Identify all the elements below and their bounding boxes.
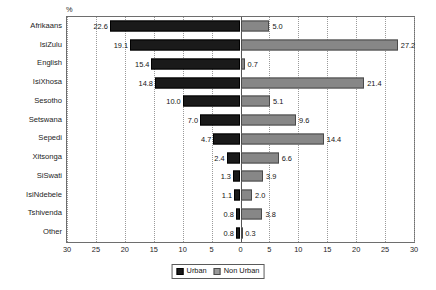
value-label-non-urban: 0.3 (245, 228, 255, 237)
legend-item[interactable]: Urban (177, 266, 207, 276)
category-label: Tshivenda (0, 208, 62, 217)
category-label: IsiXhosa (0, 77, 62, 86)
bar-non-urban (241, 21, 270, 32)
bar-non-urban (241, 77, 365, 88)
value-label-urban: 0.8 (224, 228, 234, 237)
bar-urban (130, 40, 240, 51)
chart-legend: UrbanNon Urban (172, 264, 265, 279)
category-label: Setswana (0, 115, 62, 124)
x-tick-label: 30 (63, 245, 71, 255)
value-label-non-urban: 5.0 (272, 22, 282, 31)
category-label: Afrikaans (0, 21, 62, 30)
value-label-non-urban: 0.7 (248, 59, 258, 68)
x-tick-label: 25 (92, 245, 100, 255)
chart-row: 19.127.2 (67, 36, 414, 55)
value-label-urban: 2.4 (214, 153, 224, 162)
bar-non-urban (241, 227, 243, 238)
chart-row: 10.05.1 (67, 92, 414, 111)
bar-urban (183, 96, 241, 107)
value-label-urban: 19.1 (114, 41, 128, 50)
x-axis-tick-labels: 30252015105051015202530 (66, 245, 415, 257)
gridline (414, 17, 415, 242)
chart-row: 4.714.4 (67, 130, 414, 149)
value-label-non-urban: 27.2 (401, 41, 415, 50)
bar-urban (155, 77, 241, 88)
value-label-non-urban: 3.8 (265, 209, 275, 218)
chart-row: 0.80.3 (67, 223, 414, 242)
value-label-urban: 1.3 (221, 172, 231, 181)
bar-non-urban (241, 115, 297, 126)
x-tick-label: 15 (323, 245, 331, 255)
value-label-non-urban: 6.6 (282, 153, 292, 162)
chart-row: 7.09.6 (67, 111, 414, 130)
bar-non-urban (241, 58, 245, 69)
value-label-non-urban: 3.9 (266, 172, 276, 181)
x-tick-label: 20 (352, 245, 360, 255)
x-tick-label: 30 (410, 245, 418, 255)
x-tick-label: 10 (294, 245, 302, 255)
value-label-urban: 7.0 (188, 116, 198, 125)
legend-label: Non Urban (224, 266, 260, 276)
legend-label: Urban (187, 266, 207, 276)
category-label: Xitsonga (0, 152, 62, 161)
category-label: IsiZulu (0, 40, 62, 49)
bar-urban (200, 115, 240, 126)
category-label: SiSwati (0, 171, 62, 180)
category-label: Other (0, 227, 62, 236)
category-label: Sesotho (0, 96, 62, 105)
category-axis-labels: AfrikaansIsiZuluEnglishIsiXhosaSesothoSe… (0, 16, 62, 243)
value-label-non-urban: 14.4 (327, 134, 341, 143)
bar-urban (233, 171, 241, 182)
chart-row: 15.40.7 (67, 55, 414, 74)
x-tick-label: 10 (179, 245, 187, 255)
value-label-urban: 14.8 (139, 78, 153, 87)
x-tick-label: 20 (121, 245, 129, 255)
value-label-urban: 1.1 (222, 191, 232, 200)
category-label: IsiNdebele (0, 190, 62, 199)
bar-non-urban (241, 152, 279, 163)
bar-non-urban (241, 171, 264, 182)
value-label-urban: 15.4 (135, 59, 149, 68)
chart-row: 0.83.8 (67, 205, 414, 224)
bar-non-urban (241, 40, 398, 51)
value-label-non-urban: 2.0 (255, 191, 265, 200)
value-label-non-urban: 9.6 (299, 116, 309, 125)
x-tick-label: 5 (210, 245, 214, 255)
chart-row: 2.46.6 (67, 148, 414, 167)
category-label: Sepedi (0, 133, 62, 142)
plot-area: 22.65.019.127.215.40.714.821.410.05.17.0… (66, 16, 415, 243)
value-label-urban: 4.7 (201, 134, 211, 143)
bar-non-urban (241, 190, 253, 201)
legend-swatch-icon (214, 268, 221, 275)
bar-non-urban (241, 133, 324, 144)
legend-item[interactable]: Non Urban (214, 266, 260, 276)
value-label-urban: 10.0 (166, 97, 180, 106)
bar-urban (151, 58, 240, 69)
chart-row: 1.12.0 (67, 186, 414, 205)
bar-urban (227, 152, 241, 163)
language-urban-nonurban-bar-chart: % AfrikaansIsiZuluEnglishIsiXhosaSesotho… (0, 0, 436, 290)
category-label: English (0, 58, 62, 67)
x-tick-label: 5 (267, 245, 271, 255)
bar-non-urban (241, 208, 263, 219)
value-label-urban: 22.6 (93, 22, 107, 31)
x-tick-label: 25 (381, 245, 389, 255)
x-tick-label: 15 (150, 245, 158, 255)
bar-urban (213, 133, 240, 144)
value-label-non-urban: 21.4 (367, 78, 381, 87)
chart-row: 1.33.9 (67, 167, 414, 186)
bar-urban (110, 21, 241, 32)
legend-swatch-icon (177, 268, 184, 275)
chart-row: 14.821.4 (67, 73, 414, 92)
bar-non-urban (241, 96, 270, 107)
x-tick-label: 0 (238, 245, 242, 255)
chart-row: 22.65.0 (67, 17, 414, 36)
value-label-non-urban: 5.1 (273, 97, 283, 106)
axis-unit-label: % (66, 5, 73, 14)
value-label-urban: 0.8 (224, 209, 234, 218)
